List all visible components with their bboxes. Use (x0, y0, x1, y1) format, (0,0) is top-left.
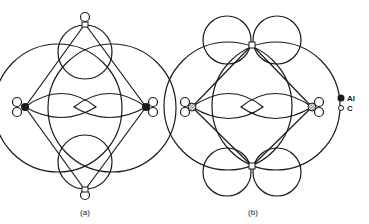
c-atom-top-joint (82, 22, 88, 27)
bond-line (192, 45, 252, 107)
bond-line (85, 107, 146, 190)
panel-a-caption: (a) (80, 208, 90, 217)
al-atom-right-hatched (308, 103, 316, 111)
c-atom-bottom (249, 163, 255, 169)
bond-line (252, 45, 312, 107)
orbital-lens-right (74, 94, 146, 118)
c-atom-bottom-joint (82, 187, 88, 192)
c-lobe-right-upper (149, 98, 158, 107)
panel-b: (b) (164, 16, 340, 217)
c-lobe-left-lower (13, 108, 22, 117)
bond-line (192, 107, 252, 166)
orbital-lens-left (25, 94, 96, 118)
orbital-bottom (58, 135, 112, 189)
bond-line (85, 24, 146, 107)
bond-line (25, 24, 85, 107)
al-atom-left (21, 103, 29, 111)
c-atom-top (249, 42, 255, 48)
orbital-lens-left (192, 94, 263, 119)
orbital-bottom-right (253, 148, 301, 196)
orbital-top-right (253, 16, 301, 64)
c-lobe-left-upper (13, 98, 22, 107)
orbital-bottom-left (203, 148, 251, 196)
legend-al-symbol (338, 95, 345, 102)
orbital-lens-right (241, 94, 312, 119)
legend-c-symbol (339, 106, 344, 111)
c-lobe-right-lower (149, 108, 158, 117)
orbital-top-left (203, 16, 251, 64)
legend-al-label: Al (347, 94, 355, 103)
bond-line (252, 107, 312, 166)
legend-c-label: C (347, 104, 353, 113)
panel-a: (a) (0, 13, 176, 218)
bond-line (25, 107, 85, 190)
al-atom-left-hatched (188, 103, 196, 111)
c-atom-top (81, 13, 90, 22)
orbital-top (58, 25, 112, 79)
panel-b-caption: (b) (248, 208, 258, 217)
orbital-diagram: (a) (b) Al C (0, 0, 369, 224)
al-atom-right (142, 103, 150, 111)
